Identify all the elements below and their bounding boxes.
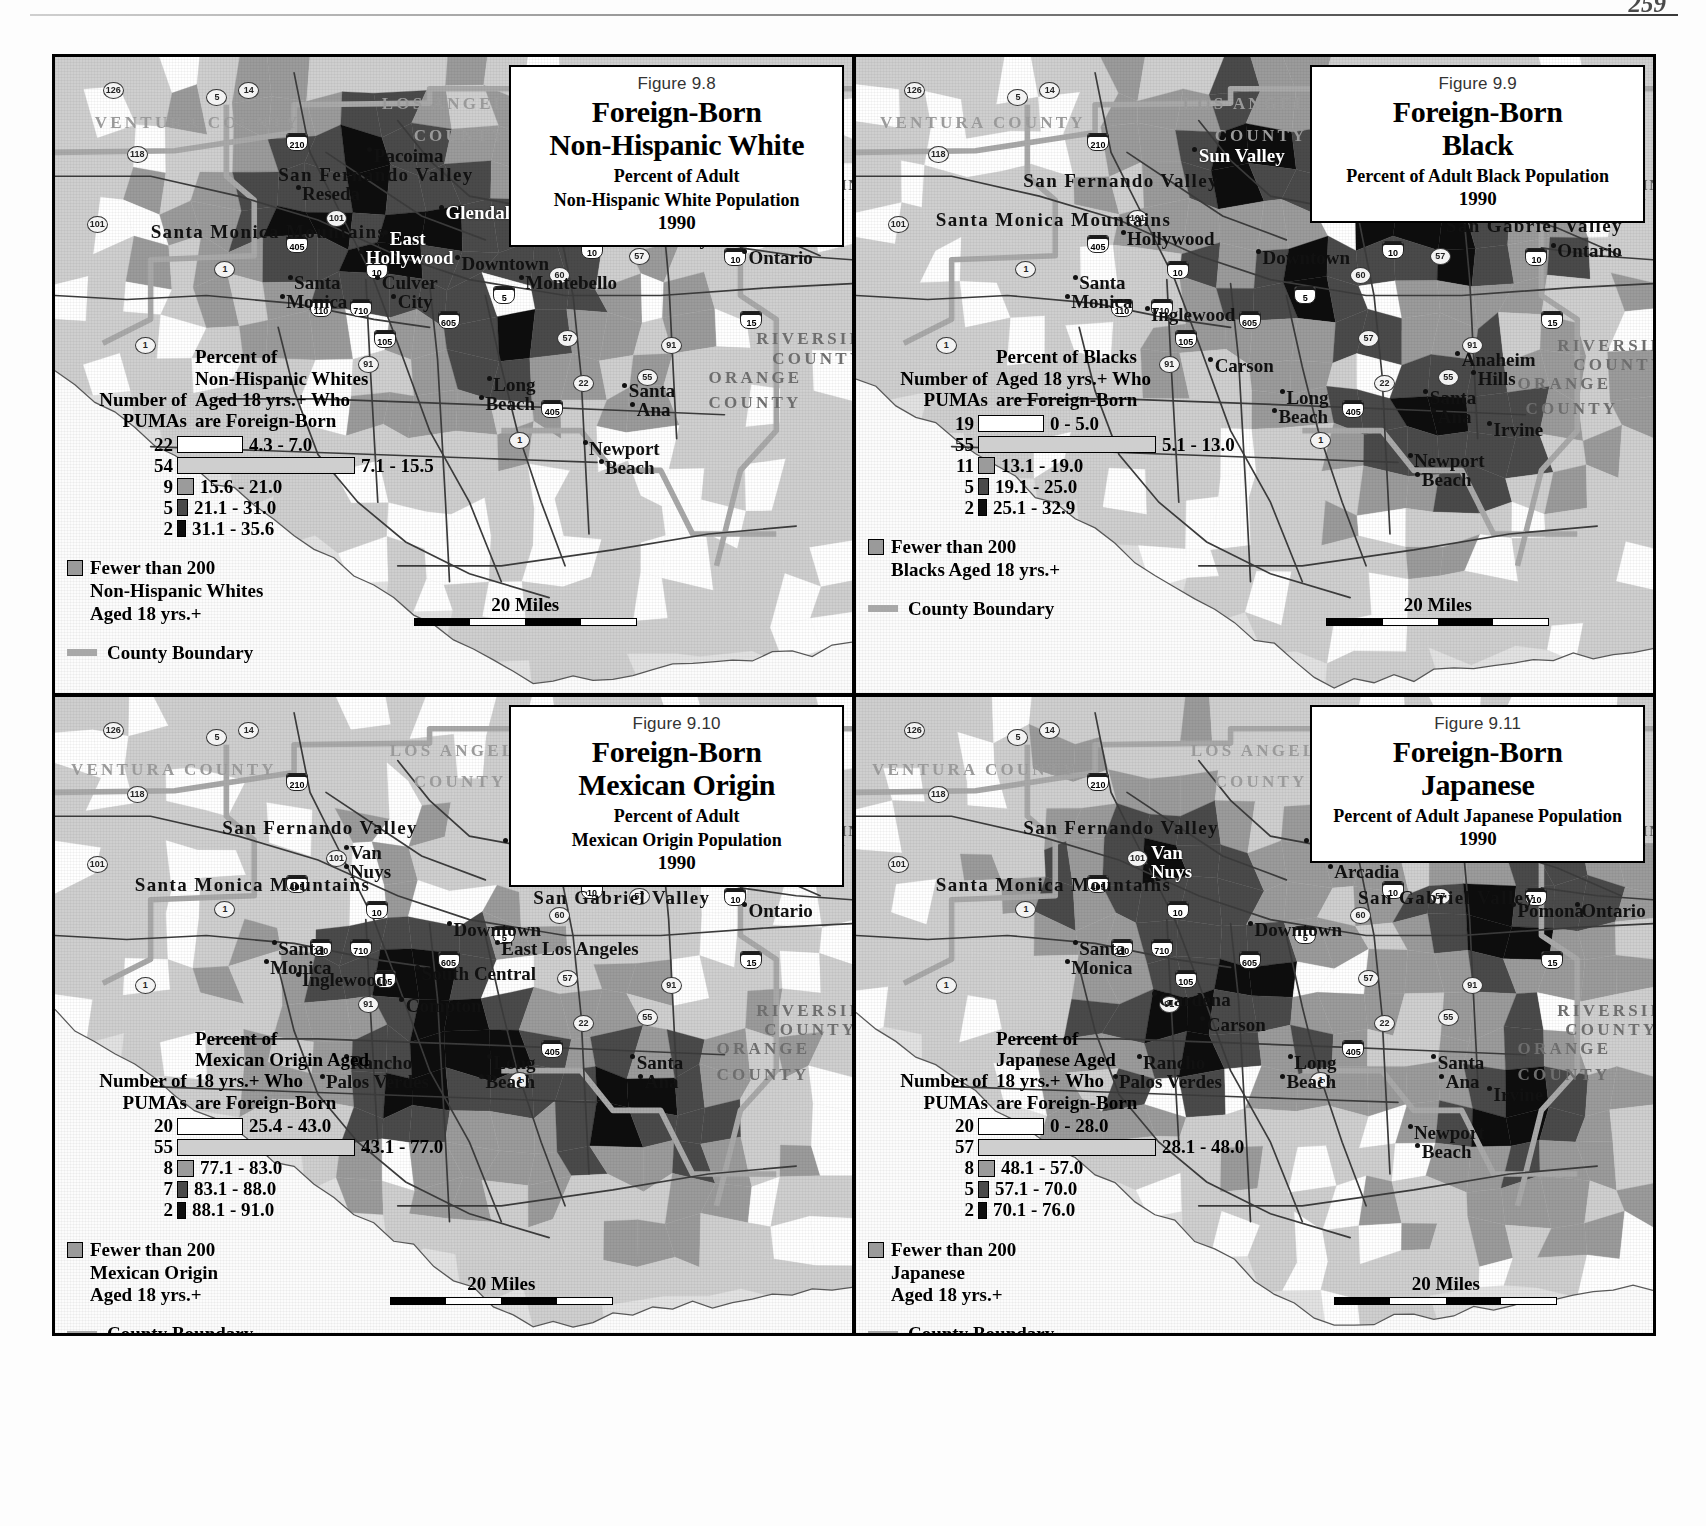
map-city-dot-icon (1439, 1074, 1444, 1079)
map-city-dot-icon (638, 1074, 643, 1079)
route-shield-icon: 101 (326, 210, 347, 227)
route-shield-icon: 405 (1342, 400, 1364, 418)
route-shield-icon: 405 (1087, 875, 1109, 893)
legend-note-line2: Non-Hispanic Whites (90, 580, 263, 603)
route-shield-icon: 605 (438, 951, 460, 969)
route-shield-icon: 10 (1525, 248, 1547, 266)
legend-value-header: Percent ofMexican Origin Aged18 yrs.+ Wh… (195, 1028, 369, 1113)
route-shield-icon: 110 (310, 939, 332, 957)
legend-class-range: 48.1 - 57.0 (1001, 1157, 1083, 1179)
legend-class-range: 5.1 - 13.0 (1162, 434, 1235, 456)
map-city-dot-icon (280, 294, 285, 299)
county-boundary-label: County Boundary (107, 1323, 253, 1336)
legend-class-count: 2 (868, 497, 978, 519)
map-city-dot-icon (1145, 845, 1150, 850)
legend-county-boundary: County Boundary (67, 1323, 443, 1336)
figure-year: 1990 (1326, 828, 1629, 849)
legend-class-row: 190 - 5.0 (868, 413, 1235, 434)
legend-suppressed-note: Fewer than 200Non-Hispanic WhitesAged 18… (67, 557, 434, 625)
figure-title-line1: Foreign-Born (525, 95, 828, 129)
legend-count-header-line2: PUMAs (868, 389, 988, 410)
legend-suppressed-text: Fewer than 200JapaneseAged 18 yrs.+ (891, 1239, 1016, 1307)
map-city-dot-icon (391, 294, 396, 299)
legend-title-line: Non-Hispanic Whites (195, 368, 368, 389)
route-shield-icon: 57 (629, 248, 650, 265)
route-shield-icon: 60 (549, 907, 570, 924)
legend-class-row: 5543.1 - 77.0 (67, 1137, 443, 1158)
map-legend: Number ofPUMAsPercent ofJapanese Aged18 … (868, 1028, 1244, 1336)
scale-bar-label: 20 Miles (390, 1273, 613, 1295)
route-shield-icon: 22 (573, 1015, 594, 1032)
figure-number: Figure 9.11 (1326, 714, 1629, 733)
county-boundary-label: County Boundary (908, 598, 1054, 620)
map-city-dot-icon (296, 972, 301, 977)
route-shield-icon: 101 (87, 856, 108, 873)
route-shield-icon: 101 (888, 856, 909, 873)
route-shield-icon: 91 (661, 977, 682, 994)
map-city-dot-icon (479, 1074, 484, 1079)
legend-class-range: 21.1 - 31.0 (194, 497, 276, 519)
legend-class-row: 200 - 28.0 (868, 1116, 1244, 1137)
legend-class-count: 8 (67, 1157, 177, 1179)
legend-class-swatch (978, 436, 1156, 453)
figure-title-box: Figure 9.9Foreign-BornBlackPercent of Ad… (1310, 65, 1645, 224)
figure-number: Figure 9.8 (525, 74, 828, 93)
legend-county-boundary: County Boundary (868, 598, 1235, 620)
map-city-dot-icon (344, 864, 349, 869)
figure-title-line2: Japanese (1326, 768, 1629, 802)
route-shield-icon: 118 (127, 786, 148, 803)
legend-class-range: 7.1 - 15.5 (361, 455, 434, 477)
map-city-dot-icon (1073, 275, 1078, 280)
legend-class-range: 0 - 28.0 (1050, 1115, 1109, 1137)
legend-count-header: Number ofPUMAs (67, 1070, 195, 1113)
route-shield-icon: 55 (1438, 1009, 1459, 1026)
route-shield-icon: 15 (740, 311, 762, 329)
legend-note-line2: Mexican Origin (90, 1262, 218, 1285)
figure-title-line1: Foreign-Born (1326, 735, 1629, 769)
legend-class-swatch (978, 415, 1044, 432)
legend-count-header: Number ofPUMAs (868, 368, 996, 411)
legend-note-line1: Fewer than 200 (891, 536, 1060, 559)
legend-class-swatch (177, 1139, 355, 1156)
legend-county-boundary: County Boundary (868, 1323, 1244, 1336)
map-city-dot-icon (1145, 864, 1150, 869)
legend-class-count: 19 (868, 413, 978, 435)
map-city-dot-icon (1575, 902, 1580, 907)
county-boundary-swatch (868, 605, 898, 612)
figure-subtitle-line1: Percent of Adult Black Population (1326, 166, 1629, 186)
route-shield-icon: 10 (1382, 881, 1404, 899)
route-shield-icon: 105 (374, 970, 396, 988)
route-shield-icon: 210 (1087, 773, 1109, 791)
legend-class-range: 28.1 - 48.0 (1162, 1136, 1244, 1158)
route-shield-icon: 1 (1015, 261, 1036, 278)
legend-note-line3: Aged 18 yrs.+ (90, 603, 263, 626)
route-shield-icon: 55 (637, 369, 658, 386)
legend-class-row: 557.1 - 70.0 (868, 1179, 1244, 1200)
legend-class-row: 225.1 - 32.9 (868, 497, 1235, 518)
figure-title-line1: Foreign-Born (1326, 95, 1629, 129)
route-shield-icon: 101 (1127, 210, 1148, 227)
route-shield-icon: 1 (135, 977, 156, 994)
legend-class-range: 88.1 - 91.0 (192, 1199, 274, 1221)
route-shield-icon: 105 (1175, 970, 1197, 988)
figure-year: 1990 (1326, 188, 1629, 209)
legend-value-header: Percent ofJapanese Aged18 yrs.+ Whoare F… (996, 1028, 1137, 1113)
route-shield-icon: 22 (573, 375, 594, 392)
route-shield-icon: 710 (350, 299, 372, 317)
figure-grid: 1265141182101011014051011071060510591105… (52, 54, 1656, 1336)
legend-class-row: 877.1 - 83.0 (67, 1158, 443, 1179)
map-city-dot-icon (495, 940, 500, 945)
map-scale-bar: 20 Miles (1326, 594, 1549, 626)
legend-class-count: 8 (868, 1157, 978, 1179)
figure-panel-foreign-born-mexican-origin: 1265141182101011014051011071060510591105… (52, 695, 854, 1336)
legend-suppressed-note: Fewer than 200Blacks Aged 18 yrs.+ (868, 536, 1235, 582)
legend-class-swatch (978, 457, 995, 474)
legend-class-swatch (177, 1202, 186, 1219)
legend-count-header-line1: Number of (868, 1070, 988, 1091)
legend-class-swatch (177, 520, 186, 537)
route-shield-icon: 405 (286, 875, 308, 893)
legend-suppressed-note: Fewer than 200Mexican OriginAged 18 yrs.… (67, 1239, 443, 1307)
legend-title-line: Percent of (195, 1028, 369, 1049)
legend-class-swatch (978, 1181, 989, 1198)
figure-subtitle-line1: Percent of Adult Japanese Population (1326, 806, 1629, 826)
